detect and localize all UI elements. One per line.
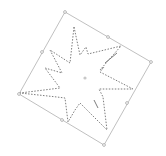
resize-handle-3[interactable]	[126, 102, 129, 105]
inner-stroke	[105, 53, 117, 63]
resize-handle-4[interactable]	[103, 144, 106, 147]
resize-handle-0[interactable]	[64, 11, 67, 14]
inner-strokes	[94, 53, 117, 108]
star-shape[interactable]	[20, 27, 133, 130]
rotation-center-icon[interactable]	[83, 76, 86, 79]
inner-stroke	[94, 100, 98, 108]
resize-handle-7[interactable]	[41, 51, 44, 54]
resize-handle-5[interactable]	[61, 119, 64, 122]
drawing-canvas[interactable]	[0, 0, 166, 156]
resize-handle-2[interactable]	[150, 61, 153, 64]
resize-handle-1[interactable]	[107, 36, 110, 39]
resize-handle-6[interactable]	[18, 93, 21, 96]
